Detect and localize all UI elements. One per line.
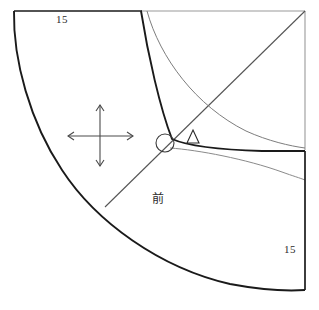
front-panel-label: 前 xyxy=(152,189,164,206)
notch-circle-marker xyxy=(156,134,174,152)
inner-seam-guide-curve xyxy=(147,11,305,148)
pattern-draft-canvas: 15 15 前 xyxy=(0,0,319,310)
front-panel-cut-curve xyxy=(141,11,305,151)
notch-triangle-marker xyxy=(187,130,199,143)
grainline-cross-marker xyxy=(68,105,133,166)
dimension-label-bottom-right: 15 xyxy=(284,243,296,255)
dimension-label-top-left: 15 xyxy=(56,13,68,25)
bias-diagonal-line xyxy=(105,11,305,207)
hem-guide-curve xyxy=(170,148,305,180)
pattern-draft-drawing xyxy=(0,0,319,310)
